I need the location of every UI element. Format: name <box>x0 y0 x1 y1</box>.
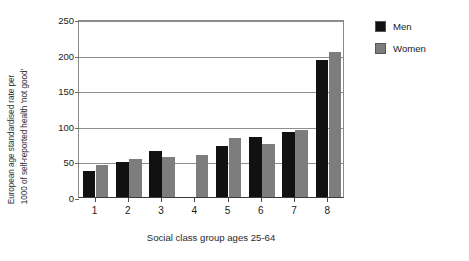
x-axis-tick-label-2: 2 <box>125 205 131 216</box>
y-axis-tick-label: 100 <box>58 121 74 132</box>
bar-men-2 <box>116 162 129 197</box>
bar-women-2 <box>129 159 142 197</box>
x-tick-mark <box>294 198 295 202</box>
plot-area <box>78 20 344 198</box>
x-tick-mark <box>95 198 96 202</box>
bar-group <box>79 21 112 197</box>
bar-women-1 <box>96 165 109 197</box>
x-axis-tick-labels: 12345678 <box>78 198 344 228</box>
y-axis-tick-label: 200 <box>58 50 74 61</box>
bar-men-6 <box>249 137 262 197</box>
x-tick-mark <box>161 198 162 202</box>
bar-group <box>279 21 312 197</box>
bar-women-6 <box>262 144 275 197</box>
legend-item-men[interactable]: Men <box>375 20 463 32</box>
chart-legend: MenWomen <box>375 20 463 64</box>
bar-group <box>312 21 345 197</box>
bar-group <box>245 21 278 197</box>
bar-men-7 <box>282 132 295 197</box>
chart-figure: European age standardised rate per 1000 … <box>0 0 469 261</box>
x-tick-mark <box>128 198 129 202</box>
bar-group <box>146 21 179 197</box>
x-tick-mark <box>261 198 262 202</box>
legend-swatch-men <box>375 21 386 32</box>
x-axis-tick-label-7: 7 <box>291 205 297 216</box>
bar-series-layer <box>79 21 343 197</box>
bar-men-8 <box>316 60 329 197</box>
y-axis-tick-label: 50 <box>63 157 74 168</box>
x-axis-tick-label-3: 3 <box>158 205 164 216</box>
y-axis-title-line-1: European age standardised rate per <box>7 14 15 204</box>
bar-women-7 <box>295 130 308 197</box>
bar-women-8 <box>329 52 342 197</box>
bar-men-5 <box>216 146 229 197</box>
x-axis-tick-label-4: 4 <box>192 205 198 216</box>
legend-swatch-women <box>375 43 386 54</box>
x-tick-mark <box>194 198 195 202</box>
x-axis-tick-label-1: 1 <box>92 205 98 216</box>
y-axis-tick-labels: 050100150200250 <box>46 0 74 261</box>
x-tick-mark <box>228 198 229 202</box>
y-axis-title-line-2: 1000 of self-reported health 'not good' <box>20 14 28 204</box>
x-axis-tick-label-5: 5 <box>225 205 231 216</box>
bar-group <box>179 21 212 197</box>
y-axis-tick-label: 250 <box>58 15 74 26</box>
bar-women-4 <box>196 155 209 197</box>
x-tick-mark <box>327 198 328 202</box>
x-axis-tick-label-6: 6 <box>258 205 264 216</box>
bar-men-3 <box>149 151 162 197</box>
bar-men-1 <box>83 171 96 197</box>
bar-group <box>112 21 145 197</box>
bar-group <box>212 21 245 197</box>
legend-item-women[interactable]: Women <box>375 42 463 54</box>
x-axis-title: Social class group ages 25-64 <box>78 232 344 243</box>
y-axis-tick-label: 150 <box>58 86 74 97</box>
legend-label-men: Men <box>393 21 412 32</box>
y-axis-title: European age standardised rate per 1000 … <box>4 14 44 204</box>
legend-label-women: Women <box>393 43 426 54</box>
y-axis-tick-label: 0 <box>69 193 74 204</box>
bar-women-3 <box>162 157 175 197</box>
bar-women-5 <box>229 138 242 197</box>
x-axis-tick-label-8: 8 <box>325 205 331 216</box>
